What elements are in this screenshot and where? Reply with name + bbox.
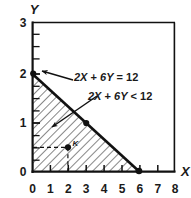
y-tick-label: 2 [20, 67, 27, 81]
point-y-intercept [30, 71, 36, 77]
x-tick-label: 4 [101, 182, 108, 196]
point-midline [83, 120, 89, 126]
equality-label: 2X + 6Y = 12 [73, 71, 138, 83]
x-axis-label: X [180, 164, 191, 179]
x-tick-label: 8 [172, 182, 179, 196]
x-tick-label: 3 [83, 182, 90, 196]
y-tick-label: 0 [20, 165, 27, 179]
chart-figure: K 2X + 6Y = 12 2X + 6Y < 12 Y X 3 2 1 0 … [0, 0, 191, 198]
y-tick-label: 1 [20, 116, 27, 130]
inequality-graph: K 2X + 6Y = 12 2X + 6Y < 12 Y X 3 2 1 0 … [0, 0, 191, 198]
point-x-intercept [136, 168, 143, 175]
y-axis-label: Y [30, 2, 40, 17]
x-tick-label: 7 [154, 182, 161, 196]
x-tick-label: 1 [47, 182, 54, 196]
point-k [65, 144, 71, 150]
x-tick-label: 2 [65, 182, 72, 196]
x-tick-label: 5 [119, 182, 126, 196]
x-tick-label: 6 [137, 182, 144, 196]
x-tick-label: 0 [29, 182, 36, 196]
y-tick-label: 3 [20, 16, 27, 30]
inequality-label: 2X + 6Y < 12 [87, 90, 152, 102]
